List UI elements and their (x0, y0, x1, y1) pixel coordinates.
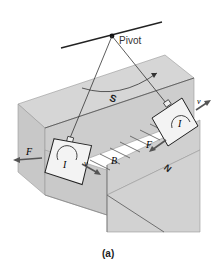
velocity-label-right: v (197, 97, 201, 106)
current-label-left: I (62, 159, 67, 170)
field-label: B (111, 155, 117, 166)
pivot-label: Pivot (119, 35, 141, 46)
current-label-right: I (177, 118, 182, 129)
figure-caption: (a) (102, 248, 114, 259)
force-label-right: F (145, 139, 153, 150)
eddy-current-pendulum-diagram: Pivot I F v B (0, 0, 221, 264)
force-label-left: F (25, 146, 33, 157)
velocity-label-left: v (84, 159, 88, 168)
